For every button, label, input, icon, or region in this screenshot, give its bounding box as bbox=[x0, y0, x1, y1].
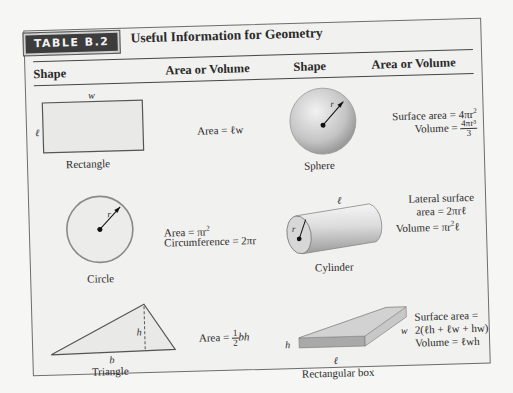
triangle-label: Triangle bbox=[92, 365, 129, 378]
cylinder-volume-formula: Volume = πr2ℓ bbox=[396, 217, 460, 235]
triangle-height-label: h bbox=[137, 326, 142, 337]
cylinder-icon bbox=[281, 201, 393, 264]
box-label: Rectangular box bbox=[302, 366, 375, 380]
rectangular-box-icon bbox=[294, 301, 415, 354]
rectangle-icon bbox=[38, 90, 150, 163]
triangle-base-label: b bbox=[109, 354, 114, 365]
circle-circumference-formula: Circumference = 2πr bbox=[164, 234, 256, 250]
triangle-area-text: Area = bbox=[199, 331, 232, 344]
table-title: Useful Information for Geometry bbox=[130, 25, 322, 46]
rectangle-width-label: w bbox=[88, 89, 95, 100]
sphere-radius-label: r bbox=[330, 99, 334, 109]
cylinder-radius-label: r bbox=[292, 224, 296, 234]
header-bottom-rule bbox=[34, 73, 474, 86]
circle-icon bbox=[63, 192, 145, 274]
header-shape-left: Shape bbox=[33, 66, 66, 82]
sphere-volume-text: Volume = bbox=[414, 121, 460, 134]
box-height-label: h bbox=[285, 339, 290, 350]
cylinder-volume-text: Volume = πr bbox=[396, 221, 451, 235]
fraction-denominator: 3 bbox=[460, 129, 477, 138]
geometry-table: TABLE B.2 Useful Information for Geometr… bbox=[23, 18, 490, 377]
box-width-label: w bbox=[401, 325, 408, 336]
rectangle-label: Rectangle bbox=[66, 157, 110, 170]
cylinder-label: Cylinder bbox=[315, 260, 354, 273]
header-area-right: Area or Volume bbox=[371, 55, 456, 72]
sphere-volume-formula: Volume = 4πr³3 bbox=[373, 119, 477, 141]
sphere-label: Sphere bbox=[304, 159, 335, 172]
circle-area-exp: 2 bbox=[206, 224, 210, 232]
sphere-icon bbox=[286, 84, 368, 166]
triangle-area-formula: Area = 12bh bbox=[199, 328, 250, 348]
cylinder-lateral-formula-line2: area = 2πrℓ bbox=[401, 204, 481, 219]
sphere-surface-exp: 2 bbox=[473, 107, 477, 115]
rectangle-area-formula: Area = ℓw bbox=[197, 123, 244, 137]
rectangle-length-label: ℓ bbox=[35, 127, 39, 138]
header-shape-right: Shape bbox=[293, 59, 326, 75]
table-badge: TABLE B.2 bbox=[23, 31, 120, 56]
header-area-left: Area or Volume bbox=[165, 61, 250, 78]
triangle-area-suffix: bh bbox=[238, 330, 249, 342]
circle-radius-label: r bbox=[107, 209, 111, 219]
box-length-label: ℓ bbox=[333, 355, 337, 366]
cylinder-length-label: ℓ bbox=[337, 195, 341, 206]
circle-label: Circle bbox=[87, 272, 114, 285]
cylinder-volume-suffix: ℓ bbox=[454, 220, 460, 232]
box-volume-formula: Volume = ℓwh bbox=[415, 335, 480, 350]
sphere-volume-fraction: 4πr³3 bbox=[460, 119, 477, 138]
triangle-icon bbox=[46, 299, 188, 363]
